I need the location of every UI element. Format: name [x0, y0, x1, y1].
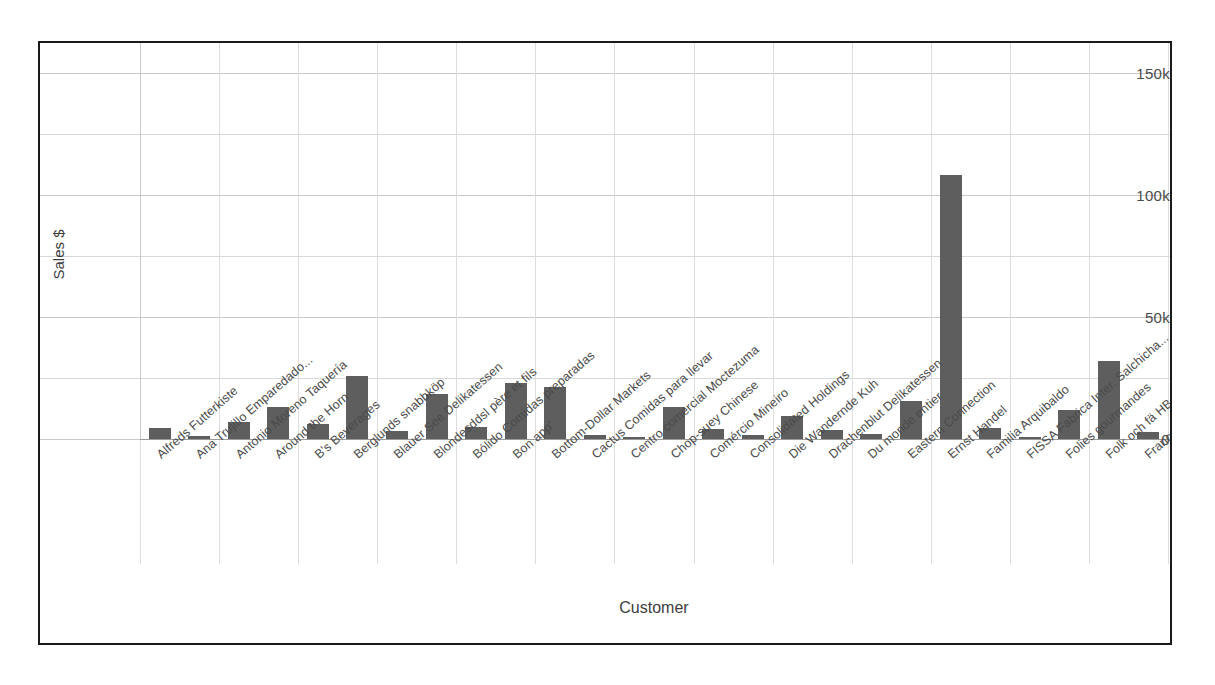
gridline-vertical: [773, 43, 774, 564]
chart-screenshot: 050k100k150kSales $Alfreds FutterkisteAn…: [0, 0, 1215, 685]
gridline-vertical: [377, 43, 378, 564]
x-axis-title: Customer: [140, 599, 1168, 617]
gridline-vertical: [298, 43, 299, 564]
gridline-vertical: [456, 43, 457, 564]
y-axis-tick-label: 150k: [1082, 65, 1170, 82]
chart-frame: 050k100k150kSales $Alfreds FutterkisteAn…: [38, 41, 1172, 645]
gridline-vertical: [1089, 43, 1090, 564]
gridline-vertical: [852, 43, 853, 564]
gridline-vertical: [614, 43, 615, 564]
gridline-vertical: [535, 43, 536, 564]
gridline-vertical: [1010, 43, 1011, 564]
gridline-horizontal: [40, 378, 1170, 379]
plot-area: 050k100k150kSales $Alfreds FutterkisteAn…: [40, 43, 1170, 643]
gridline-horizontal: [40, 134, 1170, 135]
gridline-horizontal: [40, 317, 1170, 318]
y-axis-title: Sales $: [50, 225, 67, 285]
gridline-vertical: [694, 43, 695, 564]
gridline-horizontal: [40, 73, 1170, 74]
gridline-horizontal: [40, 195, 1170, 196]
gridline-horizontal: [40, 256, 1170, 257]
gridline-vertical: [1168, 43, 1169, 564]
y-axis-line: [140, 43, 141, 439]
gridline-vertical: [931, 43, 932, 564]
y-axis-tick-label: 50k: [1082, 309, 1170, 326]
y-axis-tick-label: 100k: [1082, 187, 1170, 204]
gridline-vertical: [219, 43, 220, 564]
